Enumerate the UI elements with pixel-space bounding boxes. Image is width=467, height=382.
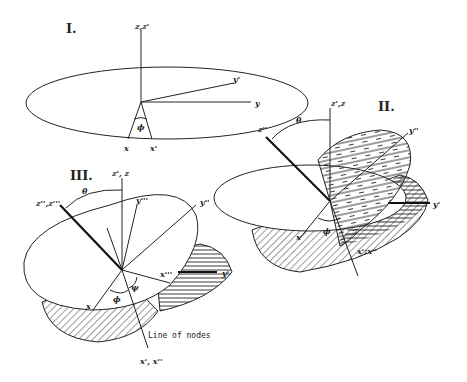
panel-3-x-label: x bbox=[85, 301, 91, 311]
panel-3-y-triple-label: y''' bbox=[135, 195, 148, 205]
panel-3-phi-label: ϕ bbox=[113, 294, 121, 304]
panel-3-line-of-nodes-text: Line of nodes bbox=[148, 331, 211, 340]
panel-2-y-prime-label: y' bbox=[432, 199, 440, 209]
panel-2-numeral: II. bbox=[378, 99, 395, 114]
panel-2-x-label: x bbox=[295, 232, 301, 242]
panel-3: III. z', z z'',z''' θ y''' y'' x''' y' x… bbox=[24, 168, 232, 366]
panel-1-phi-label: ϕ bbox=[137, 122, 145, 132]
panel-2-y-double-label: y'' bbox=[408, 125, 419, 135]
panel-3-line-of-nodes-axis-label: x', x'' bbox=[139, 356, 162, 366]
panel-2-z-label: z',z bbox=[330, 98, 346, 108]
euler-angles-diagram: I. z,z' y' y ϕ x x' II. z',z z'' θ y bbox=[0, 0, 467, 382]
panel-1-numeral: I. bbox=[66, 21, 77, 36]
panel-3-psi-label: ψ bbox=[131, 282, 139, 292]
panel-2-theta-label: θ bbox=[296, 115, 302, 125]
panel-1-x-prime-label: x' bbox=[149, 143, 157, 153]
panel-1-z-label: z,z' bbox=[134, 21, 149, 31]
panel-3-y-prime-label: y' bbox=[221, 268, 229, 278]
panel-3-numeral: III. bbox=[70, 168, 93, 183]
panel-1-y-prime-label: y' bbox=[232, 74, 240, 84]
panel-1-x-label: x bbox=[123, 143, 129, 153]
panel-2-z-double-label: z'' bbox=[257, 124, 267, 134]
panel-3-z-label: z', z bbox=[111, 168, 130, 178]
panel-3-x-triple-label: x''' bbox=[159, 269, 172, 279]
panel-3-y-double-label: y'' bbox=[199, 197, 210, 207]
panel-3-theta-label: θ bbox=[82, 186, 88, 196]
panel-2-line-of-nodes-label: x';x'' bbox=[356, 246, 377, 256]
panel-3-z-rot-label: z'',z''' bbox=[35, 198, 60, 208]
panel-2-phi-label: ϕ bbox=[323, 226, 331, 236]
